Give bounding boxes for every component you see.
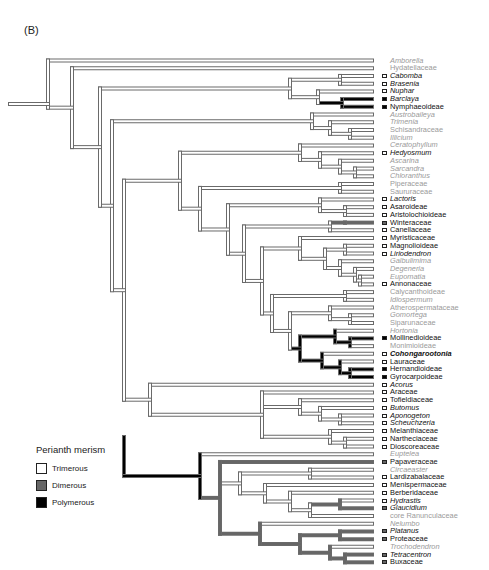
state-square-icon — [382, 445, 387, 449]
state-square-icon — [382, 244, 387, 248]
state-square-icon — [382, 360, 387, 364]
state-square-icon — [382, 483, 387, 487]
state-square-icon — [382, 336, 387, 340]
swatch-trimerous-icon — [36, 463, 47, 474]
state-square-icon — [382, 529, 387, 533]
state-square-icon — [382, 82, 387, 86]
legend-item-trimerous: Trimerous — [36, 460, 105, 477]
state-square-icon — [382, 221, 387, 225]
legend-item-polymerous: Polymerous — [36, 494, 105, 511]
state-square-icon — [382, 537, 387, 541]
state-square-icon — [382, 553, 387, 557]
state-square-icon — [382, 390, 387, 394]
state-square-icon — [382, 398, 387, 402]
state-square-icon — [382, 252, 387, 256]
state-square-icon — [382, 74, 387, 78]
state-square-icon — [382, 429, 387, 433]
state-square-icon — [382, 375, 387, 379]
state-square-icon — [382, 97, 387, 101]
state-square-icon — [382, 460, 387, 464]
legend: Perianth merism Trimerous Dimerous Polym… — [36, 444, 105, 511]
state-square-icon — [382, 421, 387, 425]
state-square-icon — [382, 367, 387, 371]
state-square-icon — [382, 414, 387, 418]
state-square-icon — [382, 506, 387, 510]
state-square-icon — [382, 499, 387, 503]
swatch-dimerous-icon — [36, 480, 47, 491]
state-square-icon — [382, 228, 387, 232]
swatch-polymerous-icon — [36, 497, 47, 508]
state-square-icon — [382, 475, 387, 479]
legend-item-dimerous: Dimerous — [36, 477, 105, 494]
state-square-icon — [382, 352, 387, 356]
state-square-icon — [382, 197, 387, 201]
state-square-icon — [382, 437, 387, 441]
state-square-icon — [382, 406, 387, 410]
state-square-icon — [382, 282, 387, 286]
tip-label: Buxaceae — [382, 558, 423, 566]
state-square-icon — [382, 89, 387, 93]
state-square-icon — [382, 205, 387, 209]
state-square-icon — [382, 151, 387, 155]
state-square-icon — [382, 213, 387, 217]
state-square-icon — [382, 560, 387, 564]
state-square-icon — [382, 491, 387, 495]
state-square-icon — [382, 236, 387, 240]
state-square-icon — [382, 105, 387, 109]
state-square-icon — [382, 383, 387, 387]
legend-title: Perianth merism — [36, 444, 105, 455]
